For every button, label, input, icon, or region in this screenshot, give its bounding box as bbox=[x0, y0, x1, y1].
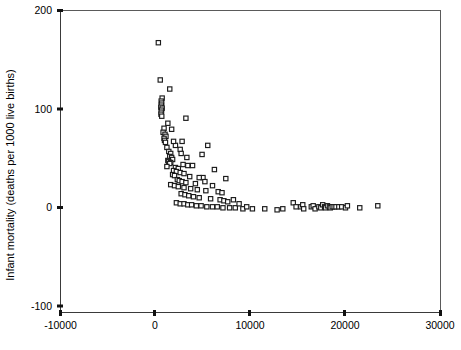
data-point bbox=[168, 87, 172, 91]
chart-canvas: 200 100 0 -100 -10000 0 10000 20000 3000… bbox=[0, 0, 461, 350]
data-point bbox=[200, 152, 204, 156]
data-point bbox=[165, 164, 169, 168]
y-tick-label-0: 0 bbox=[46, 201, 52, 213]
data-point bbox=[345, 204, 349, 208]
x-tick-label-10000: 10000 bbox=[235, 319, 264, 331]
data-point bbox=[190, 163, 194, 167]
data-point bbox=[376, 204, 380, 208]
data-point bbox=[224, 176, 228, 180]
data-point bbox=[204, 189, 208, 193]
data-point bbox=[221, 206, 225, 210]
data-point bbox=[206, 143, 210, 147]
y-tick-neg100 bbox=[57, 305, 63, 308]
data-point bbox=[186, 163, 190, 167]
data-point bbox=[220, 191, 224, 195]
data-point bbox=[179, 151, 183, 155]
x-tick-10000 bbox=[248, 310, 251, 316]
y-tick-label-100: 100 bbox=[34, 103, 52, 115]
x-tick-20000 bbox=[343, 310, 346, 316]
data-point bbox=[182, 186, 186, 190]
data-point bbox=[158, 78, 162, 82]
x-axis-ticks: -10000 0 10000 20000 30000 bbox=[44, 310, 455, 331]
data-point bbox=[210, 184, 214, 188]
data-point bbox=[231, 198, 235, 202]
data-point bbox=[184, 180, 188, 184]
data-point bbox=[205, 205, 209, 209]
x-tick-0 bbox=[153, 310, 156, 316]
x-tick-label-20000: 20000 bbox=[330, 319, 359, 331]
data-point bbox=[160, 114, 164, 118]
y-axis-title: Infant mortality (deaths per 1000 live b… bbox=[4, 69, 16, 281]
data-point bbox=[226, 200, 230, 204]
data-point bbox=[215, 205, 219, 209]
data-point bbox=[245, 205, 249, 209]
data-point bbox=[156, 41, 160, 45]
data-point bbox=[184, 116, 188, 120]
y-tick-0 bbox=[57, 206, 63, 209]
y-tick-label-200: 200 bbox=[34, 4, 52, 16]
data-point bbox=[302, 207, 306, 211]
data-point bbox=[191, 195, 195, 199]
data-point bbox=[194, 204, 198, 208]
data-point bbox=[189, 203, 193, 207]
data-point bbox=[188, 174, 192, 178]
data-point bbox=[170, 127, 174, 131]
data-point bbox=[237, 202, 241, 206]
x-tick-label-neg10000: -10000 bbox=[44, 319, 77, 331]
data-point bbox=[182, 171, 186, 175]
data-point bbox=[210, 205, 214, 209]
data-point bbox=[208, 197, 212, 201]
x-tick-label-0: 0 bbox=[152, 319, 158, 331]
x-tick-30000 bbox=[439, 310, 442, 316]
data-point bbox=[193, 182, 197, 186]
data-point bbox=[185, 155, 189, 159]
data-point bbox=[263, 207, 267, 211]
data-point bbox=[189, 187, 193, 191]
data-point bbox=[176, 185, 180, 189]
y-axis-ticks: 200 100 0 -100 bbox=[31, 4, 63, 312]
y-tick-label-neg100: -100 bbox=[31, 300, 52, 312]
y-tick-200 bbox=[57, 9, 63, 12]
data-point bbox=[187, 194, 191, 198]
plot-frame bbox=[61, 11, 441, 313]
data-point bbox=[199, 204, 203, 208]
data-point bbox=[358, 206, 362, 210]
data-point bbox=[212, 167, 216, 171]
data-point bbox=[203, 179, 207, 183]
data-point bbox=[180, 139, 184, 143]
data-point bbox=[197, 196, 201, 200]
scatter-plot-figure: 200 100 0 -100 -10000 0 10000 20000 3000… bbox=[0, 0, 461, 350]
data-point bbox=[227, 206, 231, 210]
data-points-layer bbox=[156, 41, 380, 212]
data-point bbox=[250, 207, 254, 211]
data-point bbox=[281, 207, 285, 211]
x-tick-neg10000 bbox=[59, 310, 62, 316]
data-point bbox=[275, 208, 279, 212]
data-point bbox=[197, 175, 201, 179]
data-point bbox=[171, 139, 175, 143]
data-point bbox=[166, 121, 170, 125]
data-point bbox=[181, 162, 185, 166]
x-tick-label-30000: 30000 bbox=[425, 319, 454, 331]
data-point bbox=[195, 188, 199, 192]
data-point bbox=[294, 205, 298, 209]
y-tick-100 bbox=[57, 108, 63, 111]
data-point bbox=[163, 140, 167, 144]
